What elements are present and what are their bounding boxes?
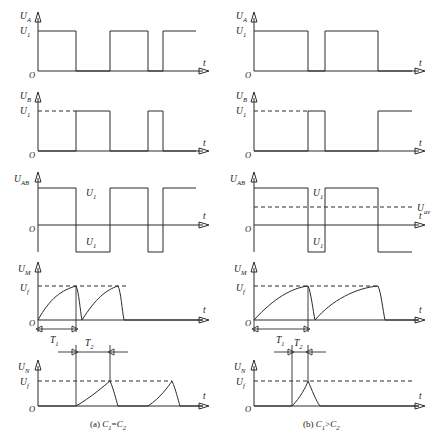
- column-b: UA U1 O t UB U1 O t UAB U1 U1: [230, 11, 430, 431]
- waveform-a-ub: [38, 111, 196, 151]
- level-label-b-un: Uf: [236, 377, 246, 389]
- time-label-b-um: t: [419, 305, 422, 315]
- dim-label-a-um: T1: [50, 335, 59, 347]
- origin-label-a-uab: O: [29, 224, 35, 234]
- waveform-a-um-curve: [38, 286, 203, 320]
- signal-label-b-ua: UA: [236, 11, 248, 23]
- signal-label-b-ub: UB: [236, 91, 247, 103]
- origin-label-b-um: O: [245, 318, 251, 328]
- signal-label-ua: UA: [20, 11, 32, 23]
- waveform-b-ub: [254, 111, 412, 151]
- level-pos-label-a-uab: U1: [86, 188, 96, 200]
- plot-b-ub: UB U1 O t: [236, 91, 425, 160]
- level-label-b-um: Uf: [236, 283, 246, 295]
- level-neg-label-b-uab: U1: [313, 237, 323, 249]
- plot-b-uab: UAB U1 U1 O t Uav: [230, 172, 430, 252]
- plot-b-um: UM Uf O t T1: [234, 262, 425, 347]
- time-label-b-ub: t: [419, 138, 422, 148]
- time-label-a-um: t: [203, 305, 206, 315]
- dim-label-b-um: T1: [276, 335, 285, 347]
- level-label-ub: U1: [20, 106, 30, 118]
- time-label-b-un: t: [419, 391, 422, 401]
- level-label-ua: U1: [20, 26, 30, 38]
- origin-label-b-uab: O: [245, 224, 251, 234]
- dim-label-b-un: T2: [294, 338, 303, 350]
- time-label-b-ua: t: [419, 58, 422, 68]
- plot-b-ua: UA U1 O t: [236, 11, 425, 80]
- level-pos-label-b-uab: U1: [313, 188, 323, 200]
- origin-label-b-ua: O: [245, 70, 251, 80]
- signal-label-uab: UAB: [14, 174, 29, 186]
- plot-b-un: UN Uf O t T2: [234, 338, 425, 414]
- plot-a-un: UN Uf O t T2: [18, 338, 209, 414]
- waveform-b-ua: [254, 31, 412, 71]
- time-label-a-uab: t: [203, 211, 206, 221]
- origin-label-a-ua: O: [29, 70, 35, 80]
- origin-label-b-ub: O: [245, 150, 251, 160]
- origin-label-a-ub: O: [29, 150, 35, 160]
- column-a: UA U1 O t UB U1 O t UAB U1 U1: [14, 11, 209, 431]
- level-neg-label-a-uab: U1: [86, 237, 96, 249]
- signal-label-um: UM: [18, 264, 31, 276]
- plot-a-uab: UAB U1 U1 O t: [14, 172, 209, 252]
- level-label-a-un: Uf: [20, 377, 30, 389]
- plot-a-um: UM Uf O t T1: [18, 262, 209, 347]
- origin-label-b-un: O: [245, 404, 251, 414]
- level-label-b-ub: U1: [236, 106, 246, 118]
- time-label-a-ub: t: [203, 138, 206, 148]
- signal-label-ub: UB: [20, 91, 31, 103]
- signal-label-b-um: UM: [234, 264, 247, 276]
- waveform-a-uab: [38, 188, 196, 252]
- plot-a-ub: UB U1 O t: [20, 91, 209, 160]
- waveform-b-un: [254, 381, 419, 406]
- caption-a: (a) C1=C2: [90, 419, 127, 431]
- dim-label-a-un: T2: [85, 338, 94, 350]
- origin-label-a-um: O: [29, 318, 35, 328]
- avg-label-b-uab: Uav: [417, 203, 430, 215]
- waveform-figure: UA U1 O t UB U1 O t UAB U1 U1: [0, 0, 436, 440]
- caption-b: (b) C1>C2: [303, 419, 340, 431]
- waveform-a-un: [38, 381, 203, 406]
- signal-label-b-uab: UAB: [230, 174, 245, 186]
- waveform-a-ua: [38, 31, 196, 71]
- waveform-b-um: [254, 286, 419, 320]
- level-label-a-um: Uf: [20, 283, 30, 295]
- origin-label-a-un: O: [29, 404, 35, 414]
- plot-a-ua: UA U1 O t: [20, 11, 209, 80]
- level-label-b-ua: U1: [236, 26, 246, 38]
- signal-label-b-un: UN: [234, 362, 246, 374]
- time-label-a-un: t: [203, 391, 206, 401]
- signal-label-un: UN: [18, 362, 30, 374]
- waveform-svg: UA U1 O t UB U1 O t UAB U1 U1: [0, 0, 436, 440]
- time-label-a-ua: t: [203, 58, 206, 68]
- waveform-b-uab: [254, 188, 412, 252]
